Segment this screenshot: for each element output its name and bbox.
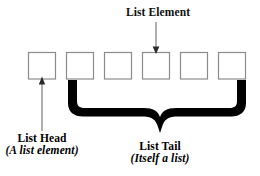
list-box-6: [219, 53, 246, 80]
list-box-2: [67, 53, 94, 80]
list-box-5: [181, 53, 208, 80]
list-box-1: [29, 53, 56, 80]
list-element-boxes: [29, 53, 246, 80]
list-tail-brace: [68, 80, 246, 133]
list-element-arrow: [153, 22, 160, 54]
list-tail-title: List Tail: [80, 140, 240, 152]
list-box-4: [143, 53, 170, 80]
list-tail-label-group: List Tail (Itself a list): [80, 140, 240, 164]
list-element-label: List Element: [28, 6, 260, 18]
list-box-3: [105, 53, 132, 80]
list-tail-subtitle: (Itself a list): [80, 152, 240, 164]
list-head-arrow: [39, 77, 45, 132]
list-structure-diagram: List Element List Head (A list element) …: [0, 0, 260, 176]
